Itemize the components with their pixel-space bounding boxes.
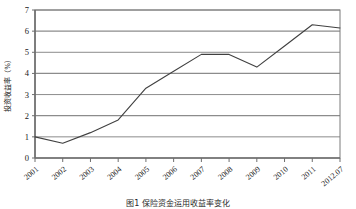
- x-tick-label: 2012.07: [320, 165, 346, 189]
- x-tick-label: 2007: [189, 165, 207, 182]
- y-tick-label: 4: [25, 68, 30, 78]
- line-chart: 01234567 2001200220032004200520062007200…: [0, 0, 356, 209]
- x-tick-label: 2003: [78, 165, 96, 182]
- x-tick-label: 2008: [216, 165, 234, 182]
- x-tick-label: 2001: [22, 165, 40, 182]
- y-tick-label: 3: [25, 90, 29, 100]
- y-tick-label: 6: [25, 26, 29, 36]
- y-tick-label: 1: [25, 132, 29, 142]
- x-tick-label: 2010: [272, 165, 290, 182]
- x-tick-label: 2006: [161, 165, 179, 182]
- figure-caption: 图1 保险资金运用收益率变化: [126, 198, 230, 208]
- x-tick-label: 2002: [50, 165, 68, 182]
- y-axis-label: 投资收益率（%）: [3, 56, 12, 112]
- y-tick-label: 7: [25, 5, 29, 15]
- x-axis-tick-labels: 2001200220032004200520062007200820092010…: [22, 165, 345, 189]
- x-tick-label: 2004: [105, 165, 123, 182]
- x-tick-label: 2011: [300, 165, 318, 182]
- y-axis-ticks: 01234567: [25, 5, 35, 163]
- x-tick-label: 2005: [133, 165, 151, 182]
- y-tick-label: 2: [25, 111, 29, 121]
- y-tick-label: 5: [25, 47, 29, 57]
- y-tick-label: 0: [25, 153, 29, 163]
- chart-figure: 01234567 2001200220032004200520062007200…: [0, 0, 356, 209]
- x-tick-label: 2009: [244, 165, 262, 182]
